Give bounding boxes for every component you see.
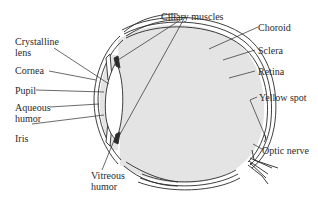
label-choroid: Choroid: [258, 22, 291, 33]
label-aqueous-humor-2: humor: [15, 113, 41, 124]
label-sclera: Sclera: [258, 45, 283, 56]
label-aqueous-humor-1: Aqueous: [15, 102, 51, 113]
label-pupil: Pupil: [15, 85, 36, 96]
label-cornea: Cornea: [15, 65, 44, 76]
label-vitreous-humor-1: Vitreous: [91, 170, 125, 181]
label-vitreous-humor-2: humor: [91, 181, 117, 192]
label-retina: Retina: [258, 66, 284, 77]
label-crystalline-lens-2: lens: [15, 47, 31, 58]
label-crystalline-lens-1: Crystalline: [15, 36, 59, 47]
label-iris: Iris: [15, 133, 28, 144]
vitreous-body: [118, 25, 264, 183]
label-optic-nerve: Optic nerve: [262, 145, 309, 156]
label-ciliary-muscles: Ciliary muscles: [161, 11, 224, 22]
label-yellow-spot: Yellow spot: [259, 92, 307, 103]
